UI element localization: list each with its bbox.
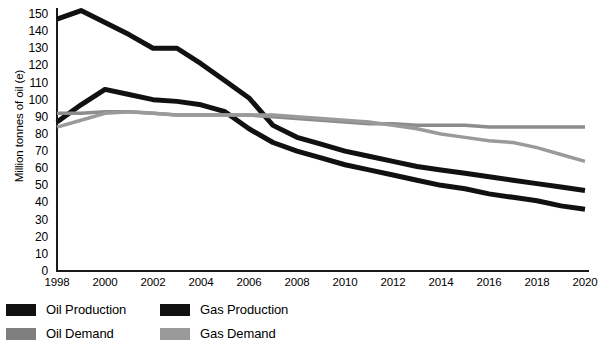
chart-legend: Oil ProductionGas ProductionOil DemandGa… [0, 300, 591, 351]
series-lines [0, 0, 591, 296]
legend-swatch-icon [6, 304, 36, 316]
legend-label: Gas Production [200, 302, 288, 317]
legend-item-oil-demand[interactable]: Oil Demand [6, 326, 114, 341]
legend-label: Oil Production [46, 302, 126, 317]
legend-item-oil-production[interactable]: Oil Production [6, 302, 126, 317]
legend-swatch-icon [6, 328, 36, 340]
series-line-gas-production [57, 89, 585, 209]
legend-label: Gas Demand [200, 326, 276, 341]
legend-swatch-icon [160, 304, 190, 316]
series-line-oil-production [57, 11, 585, 191]
legend-swatch-icon [160, 328, 190, 340]
legend-label: Oil Demand [46, 326, 114, 341]
legend-item-gas-production[interactable]: Gas Production [160, 302, 288, 317]
legend-item-gas-demand[interactable]: Gas Demand [160, 326, 276, 341]
plot-area: Million tonnes of oil (e) 01020304050607… [0, 0, 591, 296]
series-line-gas-demand [57, 112, 585, 162]
